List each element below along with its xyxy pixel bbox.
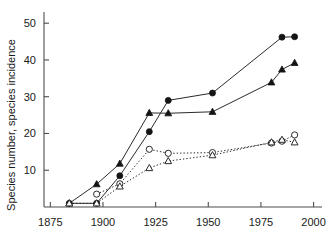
series-line-species-incidence-open-circles <box>97 135 295 194</box>
y-tick-label: 40 <box>24 54 36 66</box>
x-tick-labels: 187519001925195019752000 <box>38 216 326 228</box>
series-lines <box>69 37 294 204</box>
x-tick-label: 1925 <box>143 216 167 228</box>
y-axis-title: Species number, species incidence <box>5 39 17 211</box>
y-tick-label: 50 <box>24 17 36 29</box>
data-point-open-triangle <box>146 164 153 170</box>
data-point-open-circle <box>292 132 298 138</box>
data-point-open-triangle <box>291 139 298 145</box>
axes <box>44 12 322 207</box>
data-point-filled-triangle <box>146 109 153 115</box>
data-point-filled-triangle <box>279 66 286 72</box>
series-line-species-incidence-open-triangles <box>69 140 294 204</box>
chart-container: Species number, species incidence 102030… <box>0 0 334 246</box>
data-point-filled-circle <box>279 34 285 40</box>
data-point-open-circle <box>94 191 100 197</box>
data-point-filled-circle <box>165 97 171 103</box>
data-point-filled-triangle <box>291 59 298 65</box>
x-tick-label: 1875 <box>38 216 62 228</box>
y-tick-label: 20 <box>24 127 36 139</box>
data-point-filled-circle <box>292 34 298 40</box>
chart-plot: Species number, species incidence 102030… <box>0 0 334 246</box>
series-line-species-number-filled-triangles <box>69 63 294 203</box>
data-point-open-circle <box>146 146 152 152</box>
data-point-filled-triangle <box>116 160 123 166</box>
x-tick-label: 1900 <box>91 216 115 228</box>
data-point-filled-circle <box>117 173 123 179</box>
data-point-filled-circle <box>209 90 215 96</box>
data-point-open-circle <box>165 150 171 156</box>
data-point-filled-triangle <box>209 108 216 114</box>
x-tick-label: 1975 <box>249 216 273 228</box>
x-tick-label: 2000 <box>301 216 325 228</box>
y-tick-label: 10 <box>24 164 36 176</box>
data-point-filled-circle <box>146 129 152 135</box>
x-tick-label: 1950 <box>196 216 220 228</box>
y-tick-labels: 1020304050 <box>24 17 36 176</box>
y-tick-label: 30 <box>24 91 36 103</box>
y-axis-title-text: Species number, species incidence <box>5 39 17 211</box>
